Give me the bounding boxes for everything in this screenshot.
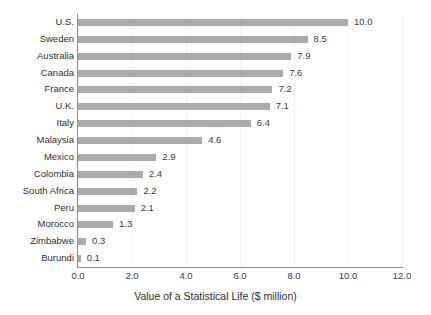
bar-value-label: 0.1 <box>87 250 100 267</box>
bar <box>78 154 156 161</box>
bar-value-label: 7.9 <box>297 48 310 65</box>
bar-row: 7.9 <box>78 48 402 65</box>
bar <box>78 255 81 262</box>
category-label: South Africa <box>0 183 74 200</box>
bar-row: 2.4 <box>78 166 402 183</box>
bar-value-label: 0.3 <box>92 233 105 250</box>
bar <box>78 221 113 228</box>
bar-row: 4.6 <box>78 132 402 149</box>
category-label: Sweden <box>0 31 74 48</box>
bar <box>78 205 135 212</box>
category-label: U.S. <box>0 14 74 31</box>
x-tick-label: 0.0 <box>71 270 84 281</box>
bar-value-label: 1.3 <box>119 216 132 233</box>
category-label: Italy <box>0 115 74 132</box>
bar-row: 2.2 <box>78 183 402 200</box>
bar-value-label: 2.9 <box>162 149 175 166</box>
bar-row: 10.0 <box>78 14 402 31</box>
bar <box>78 53 291 60</box>
category-label: Mexico <box>0 149 74 166</box>
x-tick-label: 2.0 <box>125 270 138 281</box>
bar <box>78 36 308 43</box>
bar <box>78 86 272 93</box>
bar-value-label: 7.2 <box>278 81 291 98</box>
bar-value-label: 4.6 <box>208 132 221 149</box>
bar-value-label: 8.5 <box>314 31 327 48</box>
bar <box>78 19 348 26</box>
category-label: U.K. <box>0 98 74 115</box>
bar-row: 0.1 <box>78 250 402 267</box>
bar-row: 2.9 <box>78 149 402 166</box>
bar <box>78 103 270 110</box>
bar-value-label: 2.4 <box>149 166 162 183</box>
category-label: Malaysia <box>0 132 74 149</box>
bar-value-label: 10.0 <box>354 14 373 31</box>
bar-row: 6.4 <box>78 115 402 132</box>
x-tick-label: 12.0 <box>393 270 412 281</box>
x-tick-label: 6.0 <box>233 270 246 281</box>
bar-row: 8.5 <box>78 31 402 48</box>
bar-value-label: 2.1 <box>141 200 154 217</box>
bar <box>78 238 86 245</box>
gridline <box>402 14 403 267</box>
x-axis-line <box>77 267 403 268</box>
bar-row: 0.3 <box>78 233 402 250</box>
bar-row: 1.3 <box>78 216 402 233</box>
category-label: Morocco <box>0 216 74 233</box>
category-label: Burundi <box>0 250 74 267</box>
category-label: Zimbabwe <box>0 233 74 250</box>
bar <box>78 137 202 144</box>
bar-value-label: 7.6 <box>289 65 302 82</box>
x-tick-label: 4.0 <box>179 270 192 281</box>
bar-value-label: 7.1 <box>276 98 289 115</box>
category-axis-labels: U.S.SwedenAustraliaCanadaFranceU.K.Italy… <box>0 14 74 267</box>
bar <box>78 188 137 195</box>
bar-value-label: 6.4 <box>257 115 270 132</box>
x-tick-label: 10.0 <box>339 270 358 281</box>
bar-row: 7.1 <box>78 98 402 115</box>
category-label: Australia <box>0 48 74 65</box>
bar-value-label: 2.2 <box>143 183 156 200</box>
plot-area: 10.08.57.97.67.27.16.44.62.92.42.22.11.3… <box>78 14 402 267</box>
x-axis-title: Value of a Statistical Life ($ million) <box>0 290 431 302</box>
category-label: Peru <box>0 200 74 217</box>
bar <box>78 70 283 77</box>
bar-row: 7.2 <box>78 81 402 98</box>
bar <box>78 171 143 178</box>
bar <box>78 120 251 127</box>
bar-chart: U.S.SwedenAustraliaCanadaFranceU.K.Italy… <box>0 0 431 315</box>
bar-row: 2.1 <box>78 200 402 217</box>
category-label: France <box>0 81 74 98</box>
category-label: Colombia <box>0 166 74 183</box>
x-tick-label: 8.0 <box>287 270 300 281</box>
category-label: Canada <box>0 65 74 82</box>
bar-row: 7.6 <box>78 65 402 82</box>
